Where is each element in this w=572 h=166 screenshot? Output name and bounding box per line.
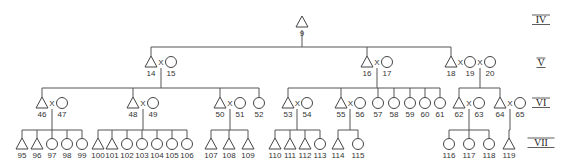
female-circle-icon <box>302 98 313 109</box>
individual-id-label: 111 <box>284 151 297 160</box>
female-circle-icon <box>465 57 476 68</box>
male-individual: 62 <box>453 97 465 119</box>
male-individual: 100 <box>91 138 105 160</box>
individual-id-label: 51 <box>236 110 245 119</box>
individual-id-label: 56 <box>356 110 365 119</box>
female-individual: 47 <box>57 98 68 120</box>
generation-label: IV <box>536 14 547 25</box>
female-individual: 59 <box>405 98 416 120</box>
individual-id-label: 106 <box>180 151 194 160</box>
individual-id-label: 99 <box>78 151 87 160</box>
female-individual: 63 <box>474 98 485 120</box>
individual-id-label: 9 <box>300 29 305 38</box>
individual-id-label: 60 <box>421 110 430 119</box>
female-individual: 52 <box>254 98 265 120</box>
female-circle-icon <box>485 57 496 68</box>
male-triangle-icon <box>445 56 457 67</box>
individual-id-label: 117 <box>463 151 476 160</box>
female-circle-icon <box>484 139 495 150</box>
female-individual: 56 <box>355 98 366 120</box>
male-individual: 101 <box>105 138 119 160</box>
female-circle-icon <box>148 98 159 109</box>
individual-id-label: 50 <box>216 110 225 119</box>
male-triangle-icon <box>361 56 373 67</box>
male-individual: 55 <box>335 97 347 119</box>
male-triangle-icon <box>205 138 217 149</box>
female-individual: 17 <box>382 57 393 79</box>
female-circle-icon <box>152 139 163 150</box>
male-triangle-icon <box>453 97 465 108</box>
female-individual: 51 <box>235 98 246 120</box>
individual-id-label: 20 <box>486 69 495 78</box>
individual-id-label: 14 <box>147 69 156 78</box>
female-individual: 106 <box>180 139 194 161</box>
individual-id-label: 98 <box>63 151 72 160</box>
individual-id-label: 53 <box>284 110 293 119</box>
female-circle-icon <box>122 139 133 150</box>
individual-id-label: 115 <box>352 151 365 160</box>
male-individual: 48 <box>127 97 139 119</box>
individual-id-label: 105 <box>165 151 179 160</box>
individual-id-label: 58 <box>390 110 399 119</box>
male-triangle-icon <box>36 97 48 108</box>
pedigree-canvas: 9141516171819204647484950515253545556575… <box>0 0 572 166</box>
male-triangle-icon <box>145 56 157 67</box>
female-circle-icon <box>405 98 416 109</box>
female-circle-icon <box>515 98 526 109</box>
individual-id-label: 107 <box>204 151 218 160</box>
individual-id-label: 103 <box>135 151 149 160</box>
individual-id-label: 95 <box>18 151 27 160</box>
female-individual: 15 <box>166 57 177 79</box>
individual-id-label: 15 <box>167 69 176 78</box>
individual-id-label: 116 <box>443 151 456 160</box>
individual-id-label: 49 <box>149 110 158 119</box>
union-x-mark: X <box>295 99 301 108</box>
female-individual: 104 <box>150 139 164 161</box>
male-triangle-icon <box>31 138 43 149</box>
individual-id-label: 96 <box>33 151 42 160</box>
male-individual: 110 <box>269 138 282 160</box>
male-individual: 95 <box>16 138 28 160</box>
male-individual: 114 <box>332 138 345 160</box>
female-circle-icon <box>444 139 455 150</box>
union-x-mark: X <box>140 99 146 108</box>
male-triangle-icon <box>16 138 28 149</box>
pedigree-diagram: 9141516171819204647484950515253545556575… <box>0 0 572 166</box>
female-individual: 49 <box>148 98 159 120</box>
female-circle-icon <box>167 139 178 150</box>
male-individual: 107 <box>204 138 218 160</box>
female-circle-icon <box>166 57 177 68</box>
female-individual: 97 <box>47 139 58 161</box>
male-triangle-icon <box>296 16 308 27</box>
individual-id-label: 110 <box>269 151 282 160</box>
individual-id-label: 63 <box>475 110 484 119</box>
union-x-mark: X <box>477 58 483 67</box>
male-triangle-icon <box>299 138 311 149</box>
union-x-mark: X <box>458 58 464 67</box>
male-triangle-icon <box>242 138 254 149</box>
male-triangle-icon <box>282 97 294 108</box>
male-individual: 119 <box>503 138 516 160</box>
male-individual: 96 <box>31 138 43 160</box>
generation-label: VI <box>536 97 547 108</box>
female-individual: 54 <box>302 98 313 120</box>
individual-id-label: 18 <box>447 69 456 78</box>
female-circle-icon <box>47 139 58 150</box>
female-individual: 115 <box>352 139 365 161</box>
female-individual: 117 <box>463 139 476 161</box>
female-circle-icon <box>137 139 148 150</box>
female-circle-icon <box>57 98 68 109</box>
union-x-mark: X <box>348 99 354 108</box>
male-triangle-icon <box>127 97 139 108</box>
male-triangle-icon <box>332 138 344 149</box>
union-x-mark: X <box>227 99 233 108</box>
individual-id-label: 118 <box>483 151 496 160</box>
female-individual: 98 <box>62 139 73 161</box>
female-circle-icon <box>315 139 326 150</box>
female-individual: 57 <box>373 98 384 120</box>
union-x-mark: X <box>466 99 472 108</box>
female-circle-icon <box>77 139 88 150</box>
individual-id-label: 19 <box>466 69 475 78</box>
union-x-mark: X <box>49 99 55 108</box>
male-individual: 50 <box>214 97 226 119</box>
